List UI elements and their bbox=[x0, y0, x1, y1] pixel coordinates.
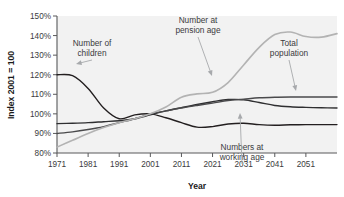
chart-svg: 150%140%130%120%110%100%90%80% 197119811… bbox=[0, 0, 344, 197]
y-axis-tick-labels: 150%140%130%120%110%100%90%80% bbox=[30, 12, 51, 158]
annotation-label-total-population: Total bbox=[280, 38, 298, 48]
plot-background bbox=[57, 16, 337, 153]
y-tick-label: 150% bbox=[30, 12, 51, 21]
annotation-label-pension-line2: pension age bbox=[175, 25, 221, 35]
x-tick-label: 2041 bbox=[266, 160, 285, 169]
population-index-chart: 150%140%130%120%110%100%90%80% 197119811… bbox=[0, 0, 344, 197]
y-tick-label: 100% bbox=[30, 110, 51, 119]
y-tick-label: 130% bbox=[30, 51, 51, 60]
y-axis-ticks bbox=[53, 16, 57, 153]
x-tick-label: 2001 bbox=[141, 160, 160, 169]
x-tick-label: 1981 bbox=[79, 160, 98, 169]
x-tick-label: 2051 bbox=[297, 160, 316, 169]
annotation-label-children: Number of bbox=[73, 38, 112, 48]
y-tick-label: 80% bbox=[35, 149, 51, 158]
x-axis-tick-labels: 197119811991200120112021203120412051 bbox=[48, 160, 316, 169]
x-tick-label: 1971 bbox=[48, 160, 67, 169]
annotation-label-working-age: Numbers at bbox=[221, 142, 265, 152]
y-tick-label: 120% bbox=[30, 71, 51, 80]
x-tick-label: 2011 bbox=[173, 160, 191, 169]
x-tick-label: 1991 bbox=[110, 160, 129, 169]
y-tick-label: 110% bbox=[31, 90, 51, 99]
annotation-label-children-line2: children bbox=[77, 48, 106, 58]
annotation-label-pension: Number at bbox=[179, 15, 218, 25]
x-axis-ticks bbox=[57, 153, 306, 157]
x-axis-title: Year bbox=[188, 181, 207, 191]
y-tick-label: 140% bbox=[30, 32, 51, 41]
y-axis-title: Index 2001 = 100 bbox=[6, 51, 16, 119]
y-tick-label: 90% bbox=[35, 129, 51, 138]
annotation-label-total-population-line2: population bbox=[270, 48, 309, 58]
